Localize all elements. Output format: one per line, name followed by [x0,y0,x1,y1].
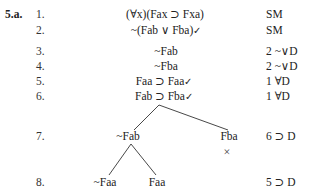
branch-formula-left: ~Faa [94,177,117,189]
justification: 1 ∀D [266,76,290,88]
justification: SM [266,25,283,37]
branch-formula-right: Fba [220,131,237,143]
branch-formula-right: Faa [149,177,166,189]
justification: SM [266,9,283,21]
justification: 5 ⊃ D [266,177,295,189]
justification: 1 ∀D [266,91,290,103]
branch-formula-left: ~Fab [116,131,139,143]
justification: 2 ~∨D [266,46,298,58]
justification: 6 ⊃ D [266,131,295,143]
closed-branch-x-icon: × [224,146,231,158]
justification: 2 ~∨D [266,61,298,73]
